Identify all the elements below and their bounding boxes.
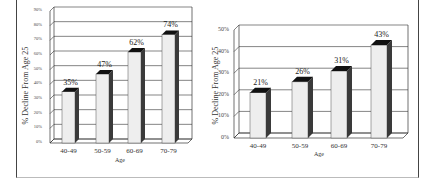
x-axis-label: Age — [304, 151, 334, 157]
bar-value-label: 62% — [122, 38, 152, 47]
y-tick-label: 90% — [22, 7, 42, 12]
bar-value-label: 26% — [288, 67, 318, 76]
bar-value-label: 21% — [246, 78, 276, 87]
bar — [96, 70, 113, 143]
y-tick-label: 20% — [209, 91, 229, 97]
bar-value-label: 74% — [156, 20, 186, 29]
y-tick-label: 10% — [22, 124, 42, 129]
bar-value-label: 31% — [327, 56, 357, 65]
x-tick-label: 40-49 — [54, 147, 84, 155]
chart-left: % Decline From Age 25 0%10%20%30%40%50%6… — [0, 0, 215, 179]
x-tick-label: 70-79 — [154, 147, 184, 155]
y-tick-label: 0% — [209, 134, 229, 140]
y-tick-label: 40% — [22, 80, 42, 85]
y-tick-label: 30% — [209, 69, 229, 75]
x-tick-label: 70-79 — [364, 142, 394, 150]
y-tick-label: 10% — [209, 112, 229, 118]
y-tick-label: 50% — [22, 66, 42, 71]
x-tick-label: 60-69 — [324, 142, 354, 150]
y-tick-label: 20% — [22, 110, 42, 115]
bar — [250, 88, 271, 138]
y-tick-label: 0% — [22, 139, 42, 144]
bar-value-label: 35% — [56, 78, 86, 87]
y-tick-label: 70% — [22, 36, 42, 41]
y-tick-label: 30% — [22, 95, 42, 100]
bar-value-label: 43% — [367, 30, 397, 39]
y-tick-label: 50% — [209, 26, 229, 32]
x-tick-label: 50-59 — [285, 142, 315, 150]
bar-value-label: 47% — [90, 60, 120, 69]
x-axis-label: Age — [105, 157, 135, 163]
x-tick-label: 50-59 — [88, 147, 118, 155]
bar — [62, 88, 79, 143]
x-tick-label: 60-69 — [120, 147, 150, 155]
bar — [128, 48, 145, 143]
y-tick-label: 60% — [22, 51, 42, 56]
bar — [331, 66, 352, 138]
bar — [162, 30, 179, 143]
chart-right: % Decline From Age 25 0%10%20%30%40%50% … — [215, 0, 431, 179]
bar — [371, 40, 392, 138]
bar — [292, 77, 313, 138]
y-tick-label: 80% — [22, 22, 42, 27]
y-tick-label: 40% — [209, 48, 229, 54]
x-tick-label: 40-49 — [243, 142, 273, 150]
